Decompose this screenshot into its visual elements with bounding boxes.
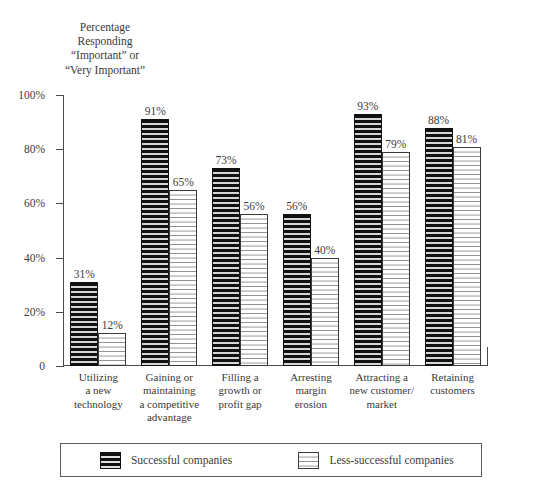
chart-legend: Successful companies Less-successful com… [60, 443, 482, 477]
bar-value-label: 79% [385, 138, 406, 150]
bar-value-label: 88% [428, 114, 449, 126]
bar[interactable]: 12% [98, 333, 126, 366]
bar-value-label: 81% [456, 133, 477, 145]
bar-group: 93%79% [346, 95, 417, 366]
bar-group: 88%81% [417, 95, 488, 366]
bar[interactable]: 81% [453, 147, 481, 367]
bar[interactable]: 65% [169, 190, 197, 366]
category-label: Utilizing a new technology [63, 371, 134, 425]
bar-value-label: 56% [244, 200, 265, 212]
bar-value-label: 56% [286, 200, 307, 212]
category-labels: Utilizing a new technologyGaining or mai… [63, 371, 488, 425]
bar[interactable]: 93% [354, 114, 382, 366]
bar-group: 31%12% [63, 95, 134, 366]
y-axis-tick-label: 60% [24, 197, 45, 209]
bar-value-label: 73% [216, 154, 237, 166]
bar-value-label: 12% [102, 319, 123, 331]
y-axis-tick: 0 [56, 366, 64, 367]
y-axis-tick-label: 40% [24, 252, 45, 264]
category-label: Retaining customers [417, 371, 488, 425]
y-axis-tick-label: 0 [39, 360, 45, 372]
bar-group: 56%40% [275, 95, 346, 366]
chart-axis-title: Percentage Responding “Important” or “Ve… [30, 20, 180, 77]
plot-area: 020%40%60%80%100% 31%12%91%65%73%56%56%4… [63, 95, 488, 366]
bar[interactable]: 88% [425, 128, 453, 366]
bar-group: 91%65% [134, 95, 205, 366]
category-label: Gaining or maintaining a competitive adv… [134, 371, 205, 425]
bar-value-label: 93% [357, 100, 378, 112]
bar-value-label: 65% [173, 176, 194, 188]
legend-item-less-successful: Less-successful companies [271, 452, 481, 469]
bar[interactable]: 79% [382, 152, 410, 366]
legend-swatch-dark-icon [100, 452, 121, 469]
legend-swatch-light-icon [298, 452, 319, 469]
category-label: Filling a growth or profit gap [205, 371, 276, 425]
category-label: Attracting a new customer/ market [346, 371, 417, 425]
category-label: Arresting margin erosion [275, 371, 346, 425]
bar[interactable]: 31% [70, 282, 98, 366]
bar[interactable]: 56% [283, 214, 311, 366]
bar[interactable]: 91% [141, 119, 169, 366]
bar[interactable]: 56% [240, 214, 268, 366]
bar-value-label: 40% [314, 244, 335, 256]
y-axis-tick-label: 80% [24, 143, 45, 155]
bar-groups: 31%12%91%65%73%56%56%40%93%79%88%81% [63, 95, 488, 366]
legend-item-successful: Successful companies [61, 452, 271, 469]
legend-label-successful: Successful companies [131, 454, 232, 466]
y-axis-tick-label: 20% [24, 306, 45, 318]
bar[interactable]: 40% [311, 258, 339, 366]
y-axis-tick-label: 100% [18, 89, 45, 101]
bar[interactable]: 73% [212, 168, 240, 366]
legend-label-less-successful: Less-successful companies [329, 454, 453, 466]
chart-root: Percentage Responding “Important” or “Ve… [0, 0, 542, 500]
bar-value-label: 91% [145, 105, 166, 117]
bar-group: 73%56% [205, 95, 276, 366]
bar-value-label: 31% [74, 268, 95, 280]
